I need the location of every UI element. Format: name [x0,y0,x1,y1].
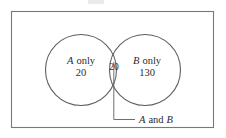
set-b-variable: B [133,55,140,66]
set-b-region-label: Bonly [133,55,162,66]
callout-conjunction: and [148,114,164,125]
set-a-value: 20 [76,67,87,78]
set-a-word: only [76,55,95,66]
set-a-region-label: Aonly [66,55,96,66]
venn-diagram-canvas: Aonly 20 20 Bonly 130 AandB [0,0,226,138]
callout-variable-a: A [138,114,146,125]
set-a-variable: A [66,55,74,66]
set-b-value: 130 [139,67,155,78]
callout-variable-b: B [167,114,174,125]
intersection-callout-label: AandB [138,114,174,125]
venn-diagram-figure: Aonly 20 20 Bonly 130 AandB [0,0,226,138]
set-b-word: only [142,55,161,66]
intersection-value: 20 [109,62,119,72]
